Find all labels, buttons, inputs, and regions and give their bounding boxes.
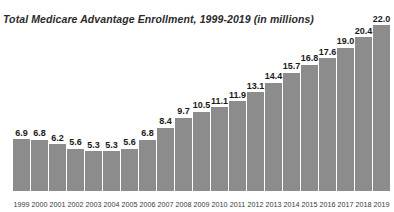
bar-value-label: 6.8 — [33, 129, 46, 138]
bar-value-label: 14.4 — [265, 72, 283, 81]
bar — [13, 139, 30, 191]
bar-value-label: 15.7 — [283, 62, 301, 71]
bar-value-label: 9.7 — [177, 107, 190, 116]
bar-value-label: 6.2 — [51, 134, 64, 143]
x-axis-tick-label: 2015 — [302, 201, 318, 208]
x-axis-tick-label: 2010 — [212, 201, 228, 208]
x-axis-tick-label: 2004 — [104, 201, 120, 208]
bar — [49, 144, 66, 191]
bar — [355, 37, 372, 191]
bar-value-label: 8.4 — [159, 117, 172, 126]
bar — [265, 83, 282, 191]
bar — [247, 92, 264, 191]
bar-value-label: 6.8 — [141, 129, 154, 138]
x-axis-tick-label: 2014 — [284, 201, 300, 208]
bar-value-label: 6.9 — [15, 129, 28, 138]
x-axis-tick-label: 2017 — [338, 201, 354, 208]
x-axis-tick-label: 1999 — [14, 201, 30, 208]
bar-value-label: 17.6 — [319, 48, 337, 57]
bar — [157, 128, 174, 191]
chart-figure: Total Medicare Advantage Enrollment, 199… — [0, 0, 394, 212]
x-axis-tick-label: 2019 — [374, 201, 390, 208]
bar — [229, 101, 246, 191]
bar — [211, 107, 228, 191]
x-axis-tick-label: 2007 — [158, 201, 174, 208]
bar-value-label: 5.3 — [87, 141, 100, 150]
bar-value-label: 5.6 — [123, 138, 136, 147]
bar — [31, 140, 48, 191]
bar-value-label: 11.9 — [229, 91, 246, 100]
bar-value-label: 22.0 — [373, 15, 391, 24]
bar — [103, 151, 120, 191]
bar-value-label: 5.6 — [69, 138, 82, 147]
bar — [319, 58, 336, 191]
x-axis-tick-label: 2018 — [356, 201, 372, 208]
bar — [121, 149, 138, 191]
bar — [301, 65, 318, 192]
bar — [139, 140, 156, 191]
x-axis-tick-label: 2003 — [86, 201, 102, 208]
x-axis-tick-label: 2011 — [230, 201, 245, 208]
bar — [337, 48, 354, 191]
bar-value-label: 16.8 — [301, 54, 319, 63]
x-axis-tick-label: 2013 — [266, 201, 282, 208]
bar — [373, 25, 390, 191]
bar-value-label: 5.3 — [105, 141, 118, 150]
bar — [193, 112, 210, 191]
bar-value-label: 10.5 — [193, 101, 211, 110]
x-axis-tick-label: 2006 — [140, 201, 156, 208]
x-axis-tick-label: 2000 — [32, 201, 48, 208]
x-axis-tick-label: 2012 — [248, 201, 264, 208]
plot-area: 6.919996.820006.220015.620025.320035.320… — [0, 0, 394, 212]
x-axis-tick-label: 2009 — [194, 201, 210, 208]
bar-value-label: 20.4 — [355, 27, 373, 36]
bar — [85, 151, 102, 191]
bar-value-label: 11.1 — [211, 97, 228, 106]
bar — [67, 149, 84, 191]
bar-value-label: 13.1 — [247, 82, 265, 91]
x-axis-tick-label: 2001 — [50, 201, 66, 208]
x-axis-tick-label: 2005 — [122, 201, 138, 208]
x-axis-tick-label: 2002 — [68, 201, 84, 208]
bar-value-label: 19.0 — [337, 37, 355, 46]
bar — [175, 118, 192, 191]
x-axis-tick-label: 2016 — [320, 201, 336, 208]
bar — [283, 73, 300, 191]
x-axis-tick-label: 2008 — [176, 201, 192, 208]
